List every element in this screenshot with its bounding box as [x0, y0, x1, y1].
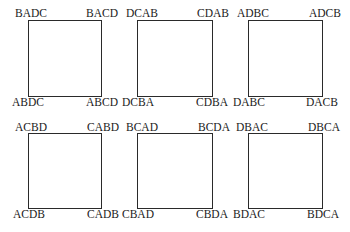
square-2-bottom-left-label: DCBA [122, 96, 154, 108]
square-3-bottom-right-label: DACB [306, 96, 338, 108]
square-2 [137, 20, 213, 97]
square-6-bottom-right-label: BDCA [307, 208, 339, 220]
square-4-top-right-label: CABD [87, 121, 119, 133]
square-1-top-right-label: BACD [86, 7, 118, 19]
square-3-bottom-left-label: DABC [233, 96, 265, 108]
square-5-top-left-label: BCAD [126, 121, 158, 133]
square-4-top-left-label: ACBD [15, 121, 47, 133]
square-3-top-right-label: ADCB [309, 7, 341, 19]
square-3 [248, 20, 323, 97]
square-5-bottom-right-label: CBDA [196, 208, 228, 220]
square-2-bottom-right-label: CDBA [196, 96, 228, 108]
square-1-bottom-right-label: ABCD [86, 96, 118, 108]
square-2-top-left-label: DCAB [126, 7, 158, 19]
square-5-top-right-label: BCDA [198, 121, 230, 133]
square-6-top-left-label: DBAC [236, 121, 268, 133]
square-3-top-left-label: ADBC [237, 7, 269, 19]
square-6 [248, 133, 323, 209]
square-1-bottom-left-label: ABDC [12, 96, 44, 108]
square-4-bottom-right-label: CADB [87, 208, 119, 220]
square-4 [28, 133, 102, 209]
square-1 [28, 20, 102, 97]
square-6-top-right-label: DBCA [308, 121, 340, 133]
square-6-bottom-left-label: BDAC [233, 208, 265, 220]
square-5 [137, 133, 213, 209]
square-2-top-right-label: CDAB [197, 7, 229, 19]
square-4-bottom-left-label: ACDB [13, 208, 45, 220]
square-1-top-left-label: BADC [15, 7, 47, 19]
square-5-bottom-left-label: CBAD [122, 208, 154, 220]
